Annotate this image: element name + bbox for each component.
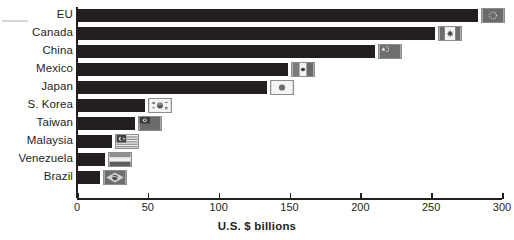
mexico-flag-icon: [291, 62, 315, 77]
china-flag-icon: [378, 44, 402, 59]
bar-row: EU: [0, 7, 514, 25]
bar-row: S. Korea: [0, 97, 514, 115]
category-label-taiwan: Taiwan: [37, 115, 73, 133]
bar: [77, 99, 145, 112]
category-label-brazil: Brazil: [44, 169, 73, 187]
bar: [77, 9, 478, 22]
axis-tick: [431, 193, 433, 199]
malaysia-flag-icon: [115, 134, 139, 149]
axis-tick: [77, 193, 79, 199]
category-label-japan: Japan: [41, 79, 73, 97]
bar-rows: EUCanadaChinaMexicoJapanS. KoreaTaiwanMa…: [0, 7, 514, 187]
axis-tick-label: 100: [209, 201, 227, 213]
axis-tick-label: 250: [422, 201, 440, 213]
bar: [77, 81, 267, 94]
category-label-venezuela: Venezuela: [18, 151, 73, 169]
category-label-canada: Canada: [32, 25, 73, 43]
plot-area: EUCanadaChinaMexicoJapanS. KoreaTaiwanMa…: [0, 0, 514, 200]
bar-row: Venezuela: [0, 151, 514, 169]
bar-row: Canada: [0, 25, 514, 43]
axis-tick: [502, 193, 504, 199]
bar: [77, 117, 135, 130]
category-label-malaysia: Malaysia: [27, 133, 73, 151]
venezuela-flag-icon: [108, 152, 132, 167]
category-label-mexico: Mexico: [36, 61, 73, 79]
south-korea-flag-icon: [148, 98, 172, 113]
category-label-china: China: [42, 43, 73, 61]
axis-tick: [219, 193, 221, 199]
axis-tick-label: 50: [142, 201, 154, 213]
bar: [77, 153, 105, 166]
bar-row: Taiwan: [0, 115, 514, 133]
bar: [77, 45, 375, 58]
axis-title: U.S. $ billions: [0, 220, 514, 232]
bar-row: Japan: [0, 79, 514, 97]
bar-row: Brazil: [0, 169, 514, 187]
axis-tick-label: 0: [74, 201, 80, 213]
canada-flag-icon: [438, 26, 462, 41]
bar-row: China: [0, 43, 514, 61]
eu-flag-icon: [481, 8, 505, 23]
axis-tick: [148, 193, 150, 199]
japan-flag-icon: [270, 80, 294, 95]
bar: [77, 135, 112, 148]
category-label-eu: EU: [57, 7, 73, 25]
bar: [77, 63, 288, 76]
brazil-flag-icon: [103, 170, 127, 185]
axis-tick-label: 150: [280, 201, 298, 213]
bar: [77, 27, 435, 40]
taiwan-flag-icon: [138, 116, 162, 131]
axis-tick: [360, 193, 362, 199]
bar: [77, 171, 100, 184]
category-label-s-korea: S. Korea: [27, 97, 73, 115]
axis-tick-label: 200: [351, 201, 369, 213]
bar-row: Mexico: [0, 61, 514, 79]
axis-tick: [290, 193, 292, 199]
axis-tick-label: 300: [493, 201, 511, 213]
bar-chart: EUCanadaChinaMexicoJapanS. KoreaTaiwanMa…: [0, 0, 514, 240]
bar-row: Malaysia: [0, 133, 514, 151]
